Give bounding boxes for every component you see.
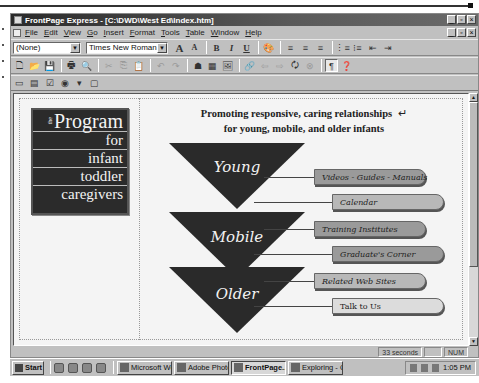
young-label[interactable]: Young [169,158,305,176]
menu-view[interactable]: View [64,28,81,37]
text-color-icon[interactable]: 🎨 [262,41,275,54]
network-icon[interactable] [421,364,428,372]
menu-window[interactable]: Window [211,28,239,37]
link-videos-guides-manuals[interactable]: Videos - Guides - Manuals [314,169,426,185]
task-exploring[interactable]: Exploring - C... [288,361,343,375]
older-label[interactable]: Older [169,285,305,303]
redo-icon[interactable]: ↷ [169,59,182,72]
print-preview-icon[interactable]: 🔍 [80,59,93,72]
doc-close-button[interactable]: × [467,28,476,37]
link-related-web-sites[interactable]: Related Web Sites [314,273,426,289]
grow-font-button[interactable]: A [173,41,186,54]
italic-button[interactable]: I [225,41,238,54]
menu-format[interactable]: Format [130,28,155,37]
chevron-down-icon[interactable]: ▼ [70,43,80,53]
dropdown-menu-icon[interactable]: ▾ [73,77,86,90]
new-page-icon[interactable]: 🗋 [13,59,26,72]
stop-icon[interactable]: ⊗ [303,59,316,72]
minimize-button[interactable]: _ [447,15,456,24]
menu-tools[interactable]: Tools [161,28,180,37]
cut-icon[interactable]: ✂ [102,59,115,72]
restore-button[interactable]: ▫ [457,15,466,24]
taskbar-separator [50,361,51,374]
quicklaunch-channels-icon[interactable] [96,363,106,373]
clock[interactable]: 1:05 PM [443,363,471,372]
program-logo[interactable]: the Program for infant toddler caregiver… [31,108,129,215]
app-icon[interactable] [14,16,22,24]
toolbar-separator [239,59,240,72]
doc-restore-button[interactable]: ▫ [457,28,466,37]
page-editor[interactable]: the Program for infant toddler caregiver… [13,93,469,346]
font-dropdown[interactable]: Times New Roman ▼ [86,42,168,54]
format-toolbar: (None) ▼ Times New Roman ▼ A A B I U 🎨 ≡… [11,39,478,56]
undo-icon[interactable]: ↶ [154,59,167,72]
save-icon[interactable]: 💾 [43,59,56,72]
scroll-thumb[interactable] [469,102,478,267]
link-talk-to-us[interactable]: Talk to Us [332,298,444,314]
link-training-institutes[interactable]: Training Institutes [314,221,426,237]
print-icon[interactable]: 🖶 [65,59,78,72]
numbered-list-icon[interactable]: ⋮≡ [336,41,349,54]
volume-icon[interactable] [410,364,417,372]
link-graduates-corner[interactable]: Graduate's Corner [332,246,444,262]
logo-the: the [47,117,53,124]
menu-file[interactable]: File [25,28,38,37]
web-bot-icon[interactable]: ☗ [191,59,204,72]
quicklaunch-outlook-icon[interactable] [68,363,78,373]
task-microsoft-word[interactable]: Microsoft Wo... [117,361,172,375]
task-frontpage[interactable]: FrontPage... [231,361,286,375]
bulleted-list-icon[interactable]: ⁝≡ [351,41,364,54]
increase-indent-icon[interactable]: ⇥ [381,41,394,54]
document-icon[interactable] [13,29,21,37]
quicklaunch-desktop-icon[interactable] [82,363,92,373]
show-all-pilcrow-icon[interactable]: ¶ [325,59,338,72]
bold-button[interactable]: B [210,41,223,54]
forward-arrow-icon[interactable]: ⇨ [273,59,286,72]
one-line-textbox-icon[interactable]: ▭ [13,77,26,90]
back-arrow-icon[interactable]: ⇦ [258,59,271,72]
menu-table[interactable]: Table [186,28,205,37]
menu-help[interactable]: Help [245,28,261,37]
scroll-up-arrow-icon[interactable]: ▲ [469,93,478,102]
shrink-font-button[interactable]: A [188,41,201,54]
radio-button-icon[interactable]: ◉ [58,77,71,90]
style-dropdown[interactable]: (None) ▼ [13,42,81,54]
refresh-icon[interactable]: 🗘 [288,59,301,72]
hyperlink-icon[interactable]: 🔗 [243,59,256,72]
scrolling-textbox-icon[interactable]: ▤ [28,77,41,90]
chevron-down-icon[interactable]: ▼ [157,43,167,53]
quicklaunch-ie-icon[interactable] [54,363,64,373]
page-rule [0,5,472,7]
mobile-label[interactable]: Mobile [169,228,305,246]
underline-button[interactable]: U [240,41,253,54]
close-button[interactable]: × [467,15,476,24]
window-title: FrontPage Express - [C:\DWD\West Ed\Inde… [25,16,214,25]
menu-go[interactable]: Go [87,28,98,37]
load-time-status: 33 seconds [378,347,422,357]
paste-icon[interactable]: 📋 [132,59,145,72]
insert-table-icon[interactable]: ▦ [206,59,219,72]
open-folder-icon[interactable]: 📂 [28,59,41,72]
insert-image-icon[interactable]: 🖼 [221,59,234,72]
decrease-indent-icon[interactable]: ⇤ [366,41,379,54]
copy-icon[interactable]: ⎘ [117,59,130,72]
link-calendar[interactable]: Calendar [332,194,444,210]
menu-insert[interactable]: Insert [104,28,124,37]
start-button[interactable]: Start [12,361,44,375]
checkbox-icon[interactable]: ☑ [43,77,56,90]
scroll-down-arrow-icon[interactable]: ▼ [469,337,478,346]
young-triangle[interactable] [169,143,305,209]
push-button-icon[interactable]: ▢ [88,77,101,90]
align-right-icon[interactable]: ≡ [314,41,327,54]
scheduler-icon[interactable] [432,364,439,372]
title-bar[interactable]: FrontPage Express - [C:\DWD\West Ed\Inde… [11,14,478,26]
task-adobe-photoshop[interactable]: Adobe Photo... [174,361,229,375]
forms-toolbar: ▭ ▤ ☑ ◉ ▾ ▢ [11,75,478,91]
menu-edit[interactable]: Edit [44,28,58,37]
vertical-scrollbar[interactable]: ▲ ▼ [469,93,478,346]
align-center-icon[interactable]: ≡ [299,41,312,54]
help-pointer-icon[interactable]: ❓ [340,59,353,72]
logo-program: Program [54,110,123,132]
align-left-icon[interactable]: ≡ [284,41,297,54]
doc-minimize-button[interactable]: _ [447,28,456,37]
